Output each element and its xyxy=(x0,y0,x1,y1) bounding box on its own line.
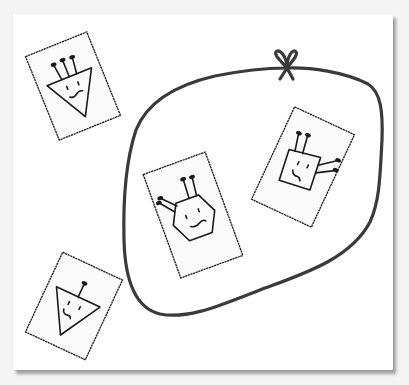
card-triangle-one-antenna xyxy=(25,252,122,360)
bow-icon xyxy=(276,51,297,79)
illustration: .card { fill: #fafafa; stroke: #1a1a1a; … xyxy=(0,0,409,385)
card-diamond-face xyxy=(252,107,356,228)
card-triangle-three-antennae xyxy=(26,32,121,140)
card-hexagon-face xyxy=(143,152,243,278)
